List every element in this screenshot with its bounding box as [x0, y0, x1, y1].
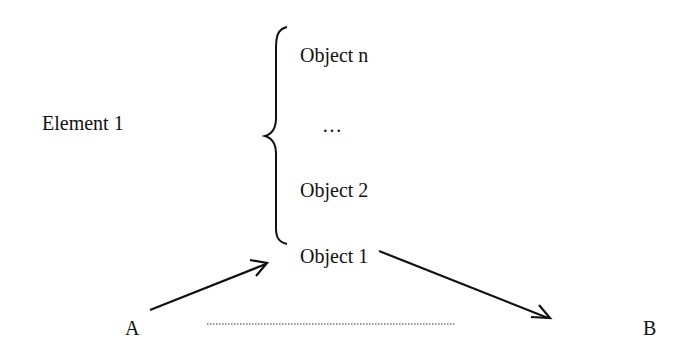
endpoint-a-label: A: [125, 318, 139, 338]
ellipsis-label: …: [322, 115, 342, 135]
arrow-a-to-object1: [150, 260, 267, 310]
element-label: Element 1: [42, 113, 124, 133]
arrow-object1-to-b: [379, 251, 550, 318]
curly-brace: [265, 27, 287, 244]
object-1-label: Object 1: [300, 246, 368, 266]
endpoint-b-label: B: [643, 318, 656, 338]
object-n-label: Object n: [300, 45, 368, 65]
object-2-label: Object 2: [300, 180, 368, 200]
